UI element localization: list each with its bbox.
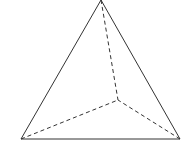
hidden-edge-bottom_right-back (118, 100, 180, 139)
visible-edges (21, 0, 180, 139)
tetrahedron-diagram (0, 0, 193, 146)
hidden-edge-bottom_left-back (21, 100, 118, 139)
hidden-edges (21, 0, 180, 139)
visible-edge-apex-bottom_left (21, 0, 101, 139)
